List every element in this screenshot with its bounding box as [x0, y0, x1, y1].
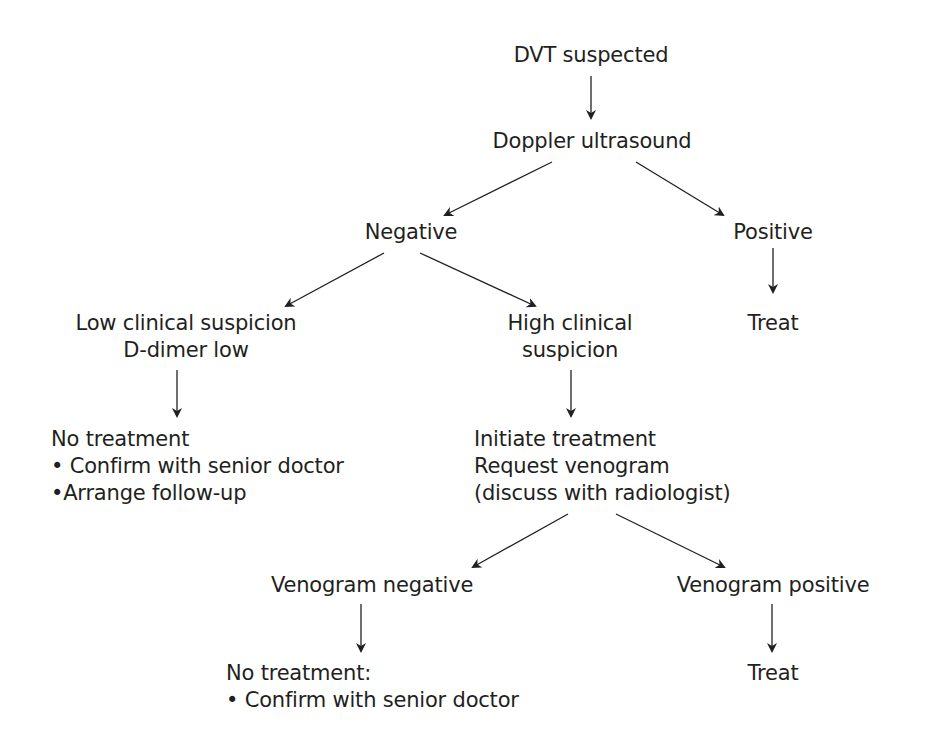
high-suspicion-line-2: suspicion: [508, 337, 633, 364]
node-dvt-suspected: DVT suspected: [514, 42, 669, 69]
node-positive: Positive: [733, 219, 812, 246]
arrow-doppler-to-negative: [445, 162, 552, 215]
initiate-line-3: (discuss with radiologist): [474, 480, 730, 507]
no-treatment-1-line-3: •Arrange follow-up: [51, 480, 344, 507]
no-treatment-2-line-2: • Confirm with senior doctor: [226, 687, 519, 714]
node-no-treatment-1: No treatment • Confirm with senior docto…: [51, 426, 344, 507]
arrow-negative-to-high: [420, 253, 535, 306]
node-treat-1: Treat: [748, 310, 799, 337]
node-negative: Negative: [365, 219, 458, 246]
arrow-negative-to-low: [286, 253, 384, 306]
node-low-clinical-suspicion: Low clinical suspicion D-dimer low: [76, 310, 297, 364]
arrow-initiate-to-vneg: [473, 514, 568, 567]
no-treatment-1-line-1: No treatment: [51, 426, 344, 453]
node-no-treatment-2: No treatment: • Confirm with senior doct…: [226, 660, 519, 714]
node-treat-2: Treat: [748, 660, 799, 687]
node-high-clinical-suspicion: High clinical suspicion: [508, 310, 633, 364]
node-venogram-negative: Venogram negative: [271, 572, 473, 599]
low-suspicion-line-1: Low clinical suspicion: [76, 310, 297, 337]
arrow-initiate-to-vpos: [616, 514, 724, 567]
low-suspicion-line-2: D-dimer low: [76, 337, 297, 364]
node-venogram-positive: Venogram positive: [677, 572, 870, 599]
node-doppler-ultrasound: Doppler ultrasound: [493, 128, 692, 155]
arrows-layer: [0, 0, 938, 743]
node-initiate-treatment: Initiate treatment Request venogram (dis…: [474, 426, 730, 507]
no-treatment-2-line-1: No treatment:: [226, 660, 519, 687]
initiate-line-1: Initiate treatment: [474, 426, 730, 453]
initiate-line-2: Request venogram: [474, 453, 730, 480]
arrow-doppler-to-positive: [636, 162, 723, 215]
high-suspicion-line-1: High clinical: [508, 310, 633, 337]
no-treatment-1-line-2: • Confirm with senior doctor: [51, 453, 344, 480]
